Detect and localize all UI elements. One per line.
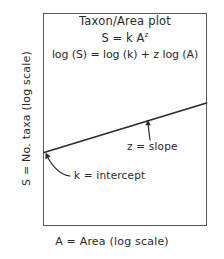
power-law-base: S = k A — [101, 31, 144, 45]
plot-title-block: Taxon/Area plot S = k Az log (S) = log (… — [44, 16, 206, 60]
intercept-annotation-label: k = intercept — [74, 169, 145, 181]
log-form-equation: log (S) = log (k) + z log (A) — [44, 49, 206, 60]
power-law-exponent: z — [145, 30, 149, 39]
page-title: Taxon/Area plot — [44, 16, 206, 28]
slope-annotation-label: z = slope — [127, 140, 178, 152]
power-law-equation: S = k Az — [44, 33, 206, 45]
y-axis-label: S = No. taxa (log scale) — [20, 7, 33, 231]
taxon-area-plot-figure: Taxon/Area plot S = k Az log (S) = log (… — [0, 0, 224, 259]
x-axis-label: A = Area (log scale) — [0, 235, 224, 248]
